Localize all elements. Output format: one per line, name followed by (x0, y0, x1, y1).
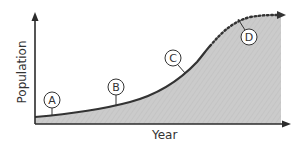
population-growth-chart: Year Population A B C D (0, 0, 303, 143)
annotation-b-label: B (112, 81, 120, 94)
x-axis-arrow-icon (282, 121, 291, 128)
curve-arrow-icon (277, 11, 286, 19)
annotation-c: C (165, 50, 185, 73)
annotation-b: B (108, 79, 124, 106)
annotation-a: A (44, 92, 60, 116)
annotation-c-label: C (169, 52, 177, 65)
x-axis-label: Year (151, 128, 177, 142)
y-axis-arrow-icon (32, 12, 39, 21)
annotation-d-label: D (245, 31, 253, 44)
annotation-a-label: A (48, 94, 56, 107)
y-axis-label: Population (15, 40, 29, 103)
